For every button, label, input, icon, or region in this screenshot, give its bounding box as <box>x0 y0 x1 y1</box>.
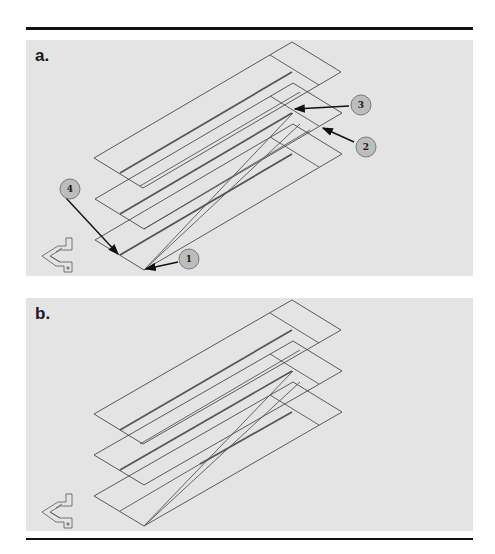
diagram-drawing: 4 1 3 2 <box>0 0 495 554</box>
svg-text:3: 3 <box>358 100 364 110</box>
orientation-triad-icon-b <box>42 494 72 528</box>
bottom-rule <box>26 538 473 540</box>
panel-b-sheets <box>94 300 342 526</box>
svg-text:2: 2 <box>363 142 369 152</box>
svg-text:1: 1 <box>186 254 192 264</box>
orientation-triad-icon <box>42 238 72 272</box>
callout-2: 2 <box>356 137 376 157</box>
panel-a-sheets <box>94 42 342 270</box>
svg-text:4: 4 <box>67 184 73 194</box>
callout-3: 3 <box>351 95 371 115</box>
callout-4: 4 <box>60 179 80 199</box>
callout-1: 1 <box>179 249 199 269</box>
